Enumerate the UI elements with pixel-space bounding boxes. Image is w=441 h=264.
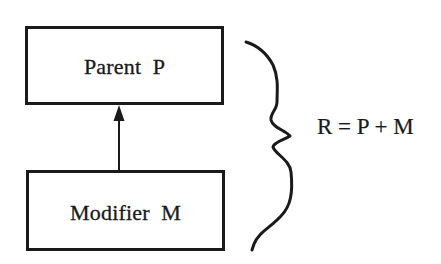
inheritance-arrow <box>114 105 125 170</box>
modifier-class-label: Modifier M <box>70 200 181 226</box>
curly-brace-icon <box>246 42 292 250</box>
parent-class-label: Parent P <box>84 54 165 80</box>
modifier-class-box: Modifier M <box>26 170 225 251</box>
result-equation: R = P + M <box>317 114 414 140</box>
diagram-canvas: Parent P Modifier M R = P + M <box>0 0 441 264</box>
parent-class-box: Parent P <box>25 26 224 105</box>
arrowhead-icon <box>114 105 125 121</box>
